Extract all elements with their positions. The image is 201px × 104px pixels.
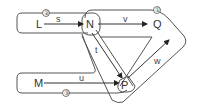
edge-t [92, 33, 122, 78]
edge-u-label: u [79, 73, 84, 83]
loop-1-label: ① [155, 7, 160, 13]
node-n-label: N [86, 18, 94, 30]
edge-w [128, 40, 169, 78]
node-l-label: L [36, 18, 42, 30]
loop-2-label: ② [44, 10, 49, 16]
edge-t-label: t [95, 45, 98, 55]
edge-v-label: v [123, 14, 128, 24]
network-diagram: L N Q M P s v t u w ② ① ③ [0, 0, 201, 104]
loop-2-path [17, 13, 88, 33]
node-p-label: P [121, 79, 128, 91]
edge-w-label: w [153, 56, 161, 66]
diagram-svg: L N Q M P s v t u w ② ① ③ [0, 0, 201, 104]
node-m-label: M [34, 77, 43, 89]
loop-3-label: ③ [64, 90, 69, 96]
node-q-label: Q [153, 18, 162, 30]
edge-s-label: s [56, 14, 61, 24]
